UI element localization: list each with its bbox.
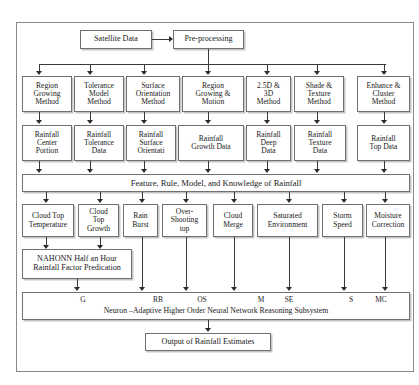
arrowhead-subsystem-s (341, 287, 347, 291)
cut-off-header-text (0, 0, 419, 8)
node-method-7-label: Enhance & Cluster Method (366, 82, 402, 107)
node-method-1-label: Region Growing Method (33, 82, 62, 107)
connector-satellite-to-preprocess (152, 39, 169, 40)
node-satellite-data[interactable]: Satellite Data (80, 30, 152, 49)
arrowhead-rainfall-2 (87, 120, 93, 124)
arrowhead-bar-2 (87, 169, 93, 173)
arrowhead-subsystem-os (183, 287, 189, 291)
node-factor-2-label: Cloud Top Growth (86, 208, 111, 233)
node-nahonn[interactable]: NAHONN Half an Hour Rainfall Factor Pred… (22, 249, 132, 279)
node-method-7[interactable]: Enhance & Cluster Method (357, 76, 410, 112)
subsystem-caption: Neuron –Adaptive Higher Order Neural Net… (23, 306, 409, 315)
connector-factor3-to-subsystem (142, 237, 143, 289)
arrowhead-subsystem-se (286, 287, 292, 291)
node-factor-3[interactable]: Rain Burst (123, 204, 158, 237)
arrowhead-factor-3 (139, 199, 145, 203)
node-rainfall-2[interactable]: Rainfall Tolerance Data (74, 125, 124, 161)
node-rainfall-5[interactable]: Rainfall Deep Data (246, 125, 291, 161)
node-knowledge-bar[interactable]: Feature, Rule, Model, and Knowledge of R… (22, 174, 410, 192)
node-rainfall-2-label: Rainfall Tolerance Data (83, 131, 115, 156)
node-method-2[interactable]: Tolerance Model Method (74, 76, 124, 112)
node-method-1[interactable]: Region Growing Method (22, 76, 72, 112)
node-rainfall-5-label: Rainfall Deep Data (255, 131, 281, 156)
node-factor-8-label: Moisture Correction (371, 212, 405, 228)
arrowhead-output (205, 328, 211, 332)
arrowhead-rainfall-3 (141, 120, 147, 124)
subsystem-input-mc: MC (375, 295, 387, 304)
node-factor-3-label: Rain Burst (131, 212, 149, 228)
arrowhead-factor-5 (231, 199, 237, 203)
arrowhead-method-6 (314, 71, 320, 75)
connector-method-bus (39, 64, 386, 65)
arrowhead-subsystem-rb (139, 287, 145, 291)
subsystem-input-g: G (80, 295, 85, 304)
arrowhead-factor-6 (286, 199, 292, 203)
arrowhead-rainfall-6 (314, 120, 320, 124)
node-method-3[interactable]: Surface Orientation Method (126, 76, 180, 112)
node-factor-8[interactable]: Moisture Correction (366, 204, 410, 237)
arrowhead-factor-1 (43, 199, 49, 203)
connector-factor6-to-subsystem (289, 237, 290, 289)
node-method-4[interactable]: Region Growing & Motion (182, 76, 244, 112)
node-rainfall-1[interactable]: Rainfall Center Portion (22, 125, 72, 161)
arrowhead-rainfall-7 (381, 120, 387, 124)
diagram-frame: Satellite Data Pre-processing Region Gro… (16, 22, 414, 372)
arrowhead-method-2 (87, 71, 93, 75)
node-rainfall-4[interactable]: Rainfall Growth Data (178, 125, 244, 161)
node-preprocessing-label: Pre-processing (183, 35, 233, 44)
arrowhead-method-3 (141, 71, 147, 75)
node-rainfall-6[interactable]: Rainfall Texture Data (294, 125, 346, 161)
node-rainfall-7[interactable]: Rainfall Top Data (357, 125, 410, 161)
node-reasoning-subsystem[interactable]: G RB OS M SE S MC Neuron –Adaptive Highe… (22, 292, 410, 320)
node-preprocessing[interactable]: Pre-processing (173, 30, 244, 49)
node-nahonn-label: NAHONN Half an Hour Rainfall Factor Pred… (32, 255, 122, 272)
node-method-5-label: 2.5D & 3D Method (256, 82, 282, 107)
node-factor-6-label: Saturated Environment (267, 212, 309, 228)
arrowhead-bar-4 (205, 169, 211, 173)
node-satellite-data-label: Satellite Data (93, 35, 139, 44)
node-factor-7-label: Storm Speed (332, 212, 353, 228)
arrowhead-subsystem-g (74, 287, 80, 291)
node-factor-7[interactable]: Storm Speed (322, 204, 363, 237)
node-method-4-label: Region Growing & Motion (195, 82, 232, 107)
arrowhead-subsystem-m (231, 287, 237, 291)
node-output[interactable]: Output of Rainfall Estimates (145, 333, 271, 351)
connector-factor8-to-subsystem (385, 237, 386, 289)
node-method-5[interactable]: 2.5D & 3D Method (246, 76, 291, 112)
node-factor-1-label: Cloud Top Temperature (28, 212, 68, 228)
node-method-3-label: Surface Orientation Method (135, 82, 172, 107)
node-rainfall-6-label: Rainfall Texture Data (307, 131, 333, 156)
node-factor-2[interactable]: Cloud Top Growth (78, 204, 119, 237)
node-factor-1[interactable]: Cloud Top Temperature (22, 204, 74, 237)
connector-factor7-to-subsystem (344, 237, 345, 289)
arrowhead-factor-7 (341, 199, 347, 203)
node-rainfall-1-label: Rainfall Center Portion (34, 131, 60, 156)
arrowhead-factor-4 (183, 199, 189, 203)
node-factor-6[interactable]: Saturated Environment (257, 204, 318, 237)
arrowhead-factor-8 (382, 199, 388, 203)
arrowhead-bar-5 (264, 169, 270, 173)
node-factor-4-label: Over- Shooting top (170, 208, 199, 233)
node-factor-5[interactable]: Cloud Merge (213, 204, 253, 237)
arrowhead-method-1 (36, 71, 42, 75)
arrowhead-bar-7 (381, 169, 387, 173)
subsystem-input-rb: RB (153, 295, 163, 304)
arrowhead-rainfall-5 (264, 120, 270, 124)
node-output-label: Output of Rainfall Estimates (161, 338, 256, 347)
arrowhead-bar-3 (141, 169, 147, 173)
arrowhead-factor-2 (97, 199, 103, 203)
subsystem-input-m: M (258, 295, 265, 304)
arrowhead-method-7 (381, 71, 387, 75)
node-factor-4[interactable]: Over- Shooting top (162, 204, 207, 237)
subsystem-input-s: S (349, 295, 353, 304)
arrowhead-method-5 (264, 71, 270, 75)
arrowhead-subsystem-mc (382, 287, 388, 291)
node-rainfall-3[interactable]: Rainfall Surface Orientati (126, 125, 176, 161)
arrowhead-bar-1 (36, 169, 42, 173)
node-rainfall-4-label: Rainfall Growth Data (190, 135, 231, 151)
node-rainfall-3-label: Rainfall Surface Orientati (137, 131, 166, 156)
node-knowledge-bar-label: Feature, Rule, Model, and Knowledge of R… (131, 178, 302, 188)
node-method-6-label: Shade & Texture Method (305, 82, 333, 107)
node-factor-5-label: Cloud Merge (222, 212, 244, 228)
node-method-6[interactable]: Shade & Texture Method (294, 76, 344, 112)
